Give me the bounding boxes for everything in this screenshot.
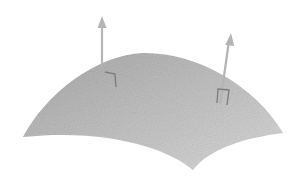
diagram-canvas: [0, 0, 304, 183]
curved-surface: [23, 53, 283, 170]
arrowhead-icon: [98, 16, 107, 28]
surface-diagram: [0, 0, 304, 183]
arrowhead-icon: [225, 33, 234, 46]
